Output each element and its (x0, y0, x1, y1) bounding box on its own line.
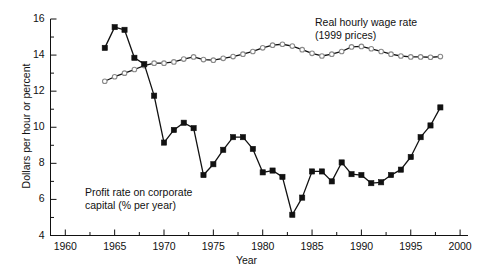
annotation-profit-line-2: capital (% per year) (85, 199, 192, 212)
y-axis-ticks (51, 19, 57, 236)
x-tick-label: 1985 (292, 240, 332, 252)
annotation-profit-line-1: Profit rate on corporate (85, 186, 192, 199)
y-tick-label: 4 (7, 229, 45, 241)
annotation-wage-line-2: (1999 prices) (315, 29, 417, 42)
x-tick-label: 1970 (144, 240, 184, 252)
x-tick-label: 1965 (95, 240, 135, 252)
x-tick-label: 1990 (341, 240, 381, 252)
series-real-hourly-wage-rate (102, 42, 442, 84)
annotation-wage-line-1: Real hourly wage rate (315, 16, 417, 29)
annotation-profit-series: Profit rate on corporate capital (% per … (85, 186, 192, 212)
x-tick-label: 1960 (45, 240, 85, 252)
x-axis-title: Year (0, 254, 493, 266)
x-tick-label: 1980 (243, 240, 283, 252)
x-tick-label: 1995 (391, 240, 431, 252)
y-tick-label: 16 (7, 12, 45, 24)
x-tick-label: 2000 (440, 240, 480, 252)
annotation-wage-series: Real hourly wage rate (1999 prices) (315, 16, 417, 42)
chart-figure: 46810121416 1960196519701975198019851990… (0, 0, 493, 276)
x-tick-label: 1975 (193, 240, 233, 252)
x-axis-ticks (65, 230, 460, 236)
y-axis-title: Dollars per hour or percent (20, 56, 32, 196)
chart-plot-area (0, 0, 493, 276)
